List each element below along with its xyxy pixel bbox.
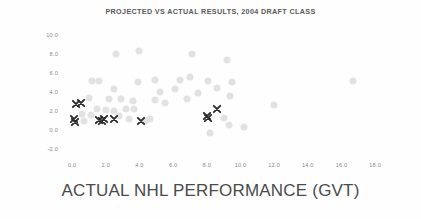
data-point-dot <box>213 85 220 92</box>
x-tick-label: 0.0 <box>68 162 76 168</box>
y-tick-label: 6.0 <box>50 70 58 76</box>
y-tick-label: 8.0 <box>50 51 58 57</box>
data-point-dot <box>151 96 158 103</box>
data-point-dot <box>227 92 234 99</box>
x-tick-label: 16.0 <box>336 162 348 168</box>
y-tick-label: 10.0 <box>46 32 58 38</box>
x-tick-label: 12.0 <box>268 162 280 168</box>
data-point-dot <box>146 115 153 122</box>
data-point-dot <box>161 99 168 106</box>
data-point-dot <box>85 94 92 101</box>
x-tick-label: 18.0 <box>369 162 381 168</box>
x-axis-ticks: 0.02.04.06.08.010.012.014.016.018.0 <box>62 159 392 173</box>
chart-title: PROJECTED VS ACTUAL RESULTS, 2004 DRAFT … <box>0 7 421 16</box>
data-point-dot <box>183 95 190 102</box>
data-point-dot <box>112 50 119 57</box>
data-point-x <box>100 114 109 123</box>
data-point-dot <box>186 73 193 80</box>
data-point-dot <box>136 47 143 54</box>
x-tick-label: 6.0 <box>169 162 177 168</box>
y-tick-label: -2.0 <box>48 146 58 152</box>
data-point-dot <box>220 114 227 121</box>
data-point-dot <box>188 50 195 57</box>
y-tick-label: 0.0 <box>50 127 58 133</box>
data-point-dot <box>122 106 129 113</box>
data-point-dot <box>96 77 103 84</box>
data-point-dot <box>205 77 212 84</box>
data-point-dot <box>151 76 158 83</box>
data-point-dot <box>156 89 163 96</box>
data-point-dot <box>126 115 133 122</box>
data-point-dot <box>111 86 118 93</box>
y-tick-label: 4.0 <box>50 89 58 95</box>
y-axis-ticks: 10.08.06.04.02.00.0-2.0 <box>0 27 62 159</box>
scatter-chart-figure: PROJECTED VS ACTUAL RESULTS, 2004 DRAFT … <box>0 0 421 219</box>
x-tick-label: 14.0 <box>302 162 314 168</box>
x-axis-title: ACTUAL NHL PERFORMANCE (GVT) <box>0 181 421 201</box>
x-tick-label: 2.0 <box>102 162 110 168</box>
data-point-dot <box>229 78 236 85</box>
data-point-dot <box>195 90 202 97</box>
data-point-dot <box>102 107 109 114</box>
data-point-x <box>70 117 79 126</box>
plot-area <box>62 27 392 159</box>
data-point-dot <box>224 56 231 63</box>
data-point-dot <box>350 77 357 84</box>
data-point-dot <box>134 78 141 85</box>
data-point-x <box>137 116 146 125</box>
data-point-x <box>77 98 86 107</box>
data-point-dot <box>94 106 101 113</box>
x-tick-label: 10.0 <box>235 162 247 168</box>
data-point-dot <box>207 130 214 137</box>
data-point-dot <box>87 112 94 119</box>
data-point-dot <box>225 121 232 128</box>
data-point-dot <box>131 106 138 113</box>
data-point-dot <box>80 117 87 124</box>
data-point-x <box>212 105 221 114</box>
data-point-dot <box>106 95 113 102</box>
data-point-x <box>203 113 212 122</box>
x-tick-label: 4.0 <box>135 162 143 168</box>
data-point-dot <box>129 97 136 104</box>
y-tick-label: 2.0 <box>50 108 58 114</box>
data-point-dot <box>176 76 183 83</box>
data-point-dot <box>171 86 178 93</box>
x-tick-label: 8.0 <box>203 162 211 168</box>
data-point-dot <box>240 124 247 131</box>
data-point-dot <box>117 95 124 102</box>
data-point-dot <box>271 102 278 109</box>
data-point-x <box>110 114 119 123</box>
